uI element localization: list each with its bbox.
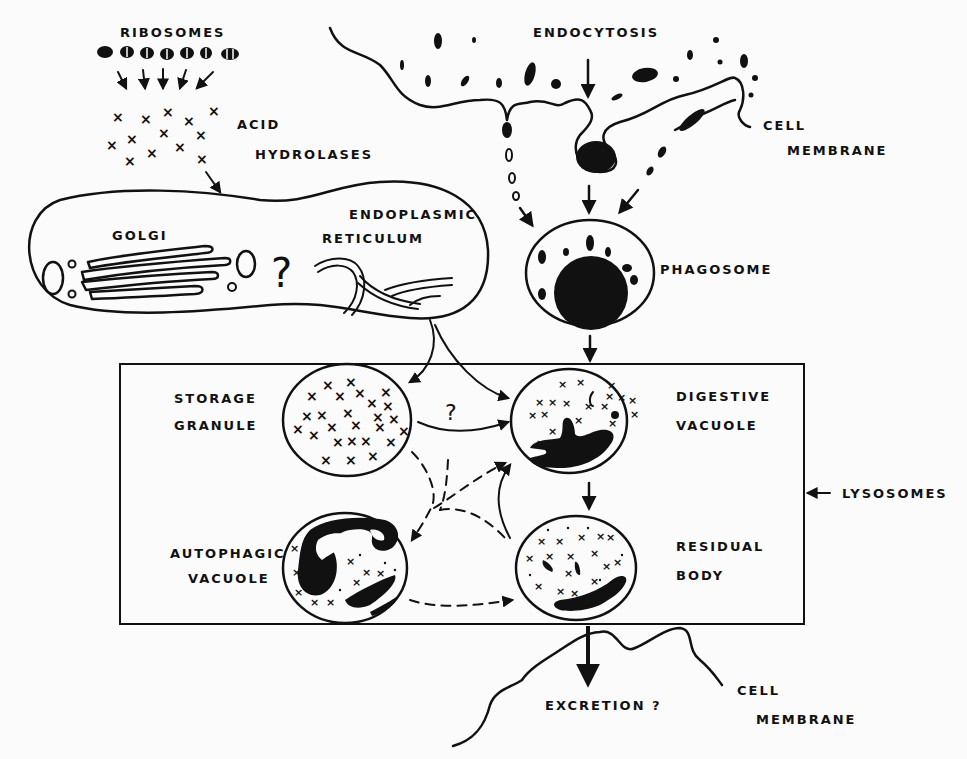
lysosomes-label: LYSOSOMES [842,486,948,501]
svg-text:×: × [292,421,304,437]
svg-text:×: × [548,425,557,438]
svg-text:×: × [195,127,207,143]
extracellular-particles [400,33,758,102]
svg-text:×: × [385,434,397,450]
svg-text:×: × [362,566,371,579]
svg-text:×: × [608,417,617,430]
golgi-er-compartment: GOLGI ? ENDOPLASMIC RETICULUM [29,182,488,319]
svg-text:×: × [346,555,355,568]
svg-text:×: × [322,377,334,393]
golgi-er-question-mark: ? [271,250,292,296]
residual-body: ×× ×× ×× ×× ×× ×× ×× ×× [516,516,636,620]
svg-text:×: × [140,111,152,127]
storage-granule: ×× ×× ×× ×× ×× ×× ×× ×× ×× ×× ×× ×× ×× [283,364,411,476]
svg-text:×: × [290,542,299,555]
ribosomes-group: RIBOSOMES ×× ×× ×× ×× ×× ×× × ACID H [97,25,373,192]
svg-text:×: × [158,125,170,141]
svg-text:×: × [613,556,622,569]
golgi-apparatus-icon [43,246,255,299]
svg-text:×: × [548,448,557,461]
svg-text:×: × [183,113,195,129]
svg-text:×: × [605,390,614,403]
svg-text:×: × [556,585,565,598]
svg-text:×: × [548,396,557,409]
ribosomes-label: RIBOSOMES [120,25,225,40]
body-label: BODY [676,568,724,583]
vacuole-label-autophagic: VACUOLE [188,571,270,586]
svg-text:×: × [570,587,579,600]
cell-label-top: CELL [763,118,806,133]
acid-hydrolase-crosses: ×× ×× ×× ×× ×× ×× × [106,103,220,169]
vesicle-trail-right [620,145,668,212]
svg-text:×: × [326,419,338,435]
svg-text:×: × [590,575,599,588]
svg-text:×: × [617,391,626,404]
svg-text:×: × [602,560,611,573]
autophagic-label: AUTOPHAGIC [170,546,286,561]
lysosome-diagram: RIBOSOMES ×× ×× ×× ×× ×× ×× × ACID H [0,0,967,759]
digestive-vacuole: ×× ×× ×× ×× ×× ×× ×× ×× ×× × [511,369,639,473]
svg-text:×: × [606,531,615,544]
hydrolase-to-golgi-arrow [206,172,220,192]
svg-text:×: × [332,434,344,450]
ribosome-arrows [118,69,213,88]
vesicle-trail-left [506,149,532,225]
svg-text:×: × [537,535,546,548]
svg-text:×: × [196,151,208,167]
svg-text:×: × [174,139,186,155]
svg-text:×: × [208,103,220,119]
svg-text:×: × [628,394,637,407]
svg-text:×: × [367,448,379,464]
svg-text:×: × [106,137,118,153]
cell-label-bottom: CELL [737,683,780,698]
svg-text:×: × [124,153,136,169]
svg-text:×: × [310,596,319,609]
svg-text:×: × [558,378,567,391]
svg-text:×: × [294,586,303,599]
svg-text:×: × [574,414,583,427]
granule-label: GRANULE [174,418,257,433]
svg-text:×: × [126,131,138,147]
svg-text:×: × [360,433,372,449]
svg-text:×: × [555,535,564,548]
svg-text:×: × [584,400,593,413]
svg-text:×: × [576,376,585,389]
svg-text:×: × [350,417,362,433]
membrane-label-bottom: MEMBRANE [756,712,857,727]
phagosome [526,220,654,330]
svg-text:×: × [630,408,639,421]
svg-text:×: × [566,550,575,563]
storage-label: STORAGE [174,391,257,406]
svg-text:×: × [398,423,410,439]
excretion-label: EXCRETION ? [545,698,662,713]
endocytosis-label: ENDOCYTOSIS [533,25,659,40]
autophagic-vacuole: ×× ×× ×× ×× × [283,513,407,623]
reticulum-label: RETICULUM [322,231,424,246]
svg-text:×: × [596,530,605,543]
hydrolases-label: HYDROLASES [255,147,373,162]
svg-text:×: × [352,576,361,589]
ribosome-icons [97,46,239,60]
storage-to-digestive-arrow [418,422,508,431]
svg-text:×: × [334,388,346,404]
svg-text:×: × [545,550,554,563]
residual-label: RESIDUAL [676,539,764,554]
svg-text:×: × [528,409,537,422]
storage-question-mark: ? [445,400,457,425]
svg-text:×: × [540,408,549,421]
svg-text:×: × [536,437,545,450]
svg-text:×: × [564,567,573,580]
svg-text:×: × [346,433,358,449]
lysosome-pathways [410,452,512,606]
er-to-storage-arrow [410,320,434,382]
endocytic-vesicle [576,141,616,173]
svg-text:×: × [376,567,385,580]
svg-text:×: × [112,109,124,125]
svg-text:×: × [577,531,586,544]
svg-text:×: × [326,596,335,609]
svg-text:×: × [534,580,543,593]
endocytosis-group: ENDOCYTOSIS [330,25,888,225]
svg-text:×: × [374,419,386,435]
svg-text:×: × [292,566,301,579]
phagosome-label: PHAGOSOME [660,262,772,277]
